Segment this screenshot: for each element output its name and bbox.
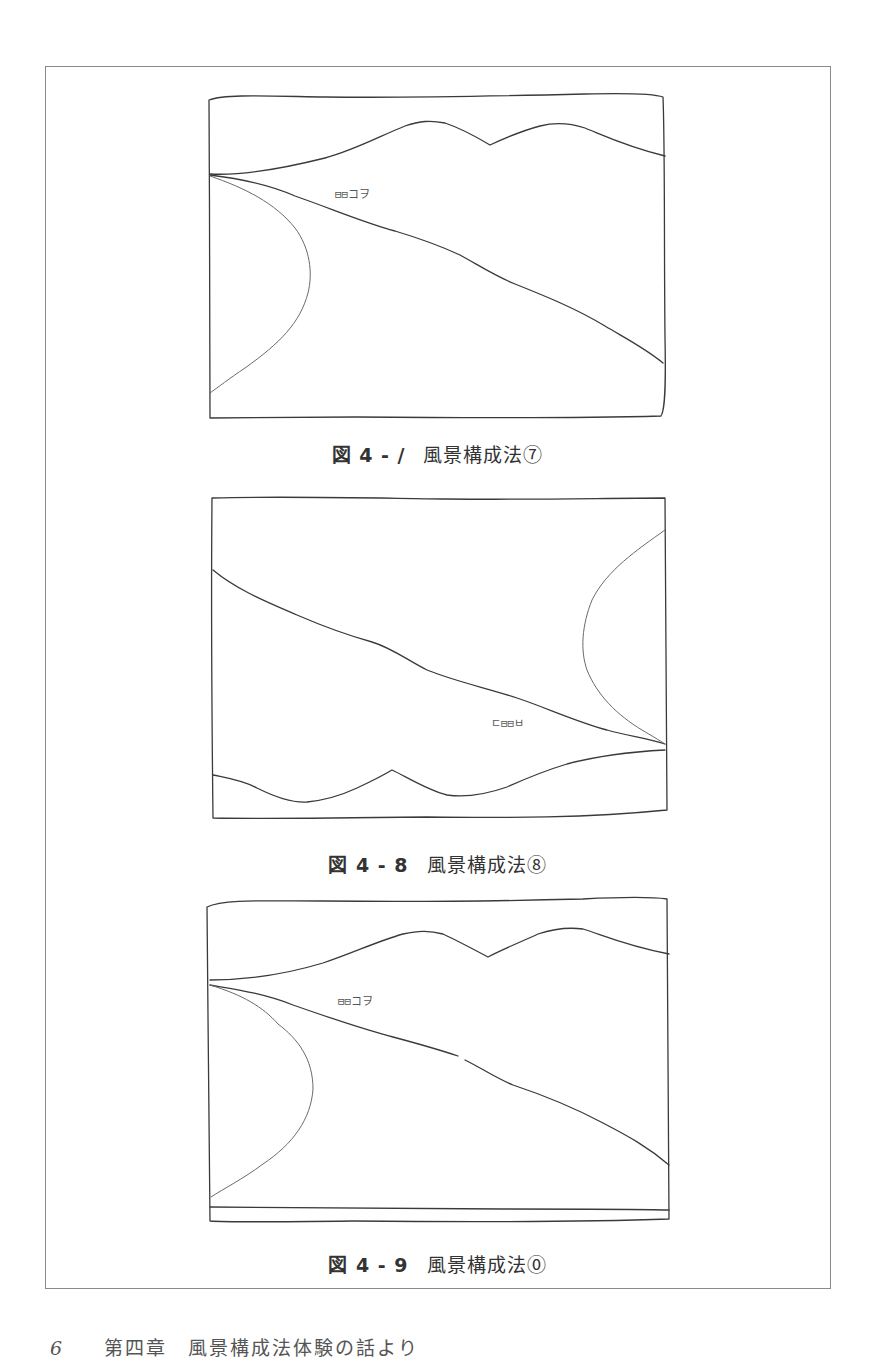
svg-text:⊟⊟コヲ: ⊟⊟コヲ (338, 995, 373, 1008)
svg-text:ㄷ⊟⊟ㅂ: ㄷ⊟⊟ㅂ (491, 717, 524, 730)
running-head: 第四章 風景構成法体験の話より (104, 1337, 419, 1359)
figure-title: 風景構成法⑦ (423, 444, 543, 466)
figure-caption: 図 4 - 9風景構成法⓪ (0, 1250, 875, 1277)
svg-text:⊟⊟コヲ: ⊟⊟コヲ (335, 188, 370, 201)
running-footer: 6第四章 風景構成法体験の話より (50, 1333, 419, 1360)
figure-title: 風景構成法⑧ (427, 854, 547, 876)
house-mark: ㄷ⊟⊟ㅂ (491, 717, 524, 730)
house-mark: ⊟⊟コヲ (338, 995, 373, 1008)
landscape-sketch: ⊟⊟コヲ (205, 88, 670, 423)
figure-title: 風景構成法⓪ (427, 1254, 547, 1276)
figure-4-7-drawing: ⊟⊟コヲ (205, 88, 670, 423)
figure-number: 図 4 - 9 (328, 1254, 408, 1276)
page-number: 6 (50, 1337, 64, 1359)
figure-caption: 図 4 - /風景構成法⑦ (0, 440, 875, 467)
figure-4-9-drawing: ⊟⊟コヲ (203, 889, 673, 1229)
landscape-sketch: ㄷ⊟⊟ㅂ (207, 490, 672, 825)
figure-caption: 図 4 - 8風景構成法⑧ (0, 850, 875, 877)
landscape-sketch: ⊟⊟コヲ (203, 889, 673, 1229)
house-mark: ⊟⊟コヲ (335, 188, 370, 201)
figure-number: 図 4 - / (332, 444, 406, 466)
figure-number: 図 4 - 8 (328, 854, 408, 876)
figure-4-8-drawing: ㄷ⊟⊟ㅂ (207, 490, 672, 825)
